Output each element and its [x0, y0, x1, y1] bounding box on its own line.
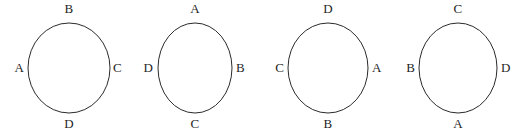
circle-2-label-bottom: C	[191, 117, 200, 131]
circle-4-label-left: B	[406, 61, 415, 75]
circle-4-label-top: C	[454, 2, 463, 16]
circle-1-label-left: A	[14, 61, 24, 75]
circle-3-label-left: C	[275, 61, 284, 75]
circle-outline-3	[284, 19, 372, 117]
circle-1-label-right: C	[113, 61, 122, 75]
circle-1-label-bottom: D	[64, 117, 74, 131]
circle-2-label-right: B	[236, 61, 245, 75]
circle-3-label-right: A	[372, 61, 382, 75]
circle-outline-1	[24, 19, 114, 117]
circle-outline-4	[415, 19, 501, 117]
circle-4-label-right: D	[501, 61, 511, 75]
circle-3-label-bottom: B	[324, 117, 333, 131]
circle-outline-2	[154, 19, 236, 117]
circle-3-label-top: D	[323, 2, 333, 16]
circle-2-label-top: A	[190, 2, 200, 16]
circle-4-label-bottom: A	[453, 117, 463, 131]
circle-1-label-top: B	[65, 2, 74, 16]
circles-figure: B C D A A B C D D A B C C D A B	[0, 0, 529, 137]
circle-2-label-left: D	[143, 61, 153, 75]
